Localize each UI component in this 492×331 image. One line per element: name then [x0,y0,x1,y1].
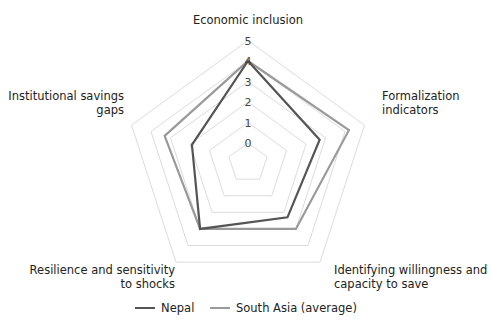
axis-label-1: Formalizationindicators [382,89,460,117]
series-line-nepal [192,61,320,229]
tick-label-0: 0 [245,137,252,150]
legend-item-south-asia: South Asia (average) [210,301,357,315]
legend-swatch-south-asia [210,307,230,309]
tick-label-1: 1 [245,117,252,130]
radar-chart: 012345 Economic inclusionFormalizationin… [0,0,492,300]
legend-label-nepal: Nepal [161,301,194,315]
legend-swatch-nepal [135,307,155,309]
legend-item-nepal: Nepal [135,301,194,315]
axis-label-3: Resilience and sensitivityto shocks [30,263,176,291]
tick-label-3: 3 [245,76,252,89]
tick-label-2: 2 [245,96,252,109]
axis-label-0: Economic inclusion [193,13,303,27]
tick-label-4: 4 [245,55,252,68]
axis-label-2: Identifying willingness andcapacity to s… [334,263,487,291]
tick-labels: 012345 [245,35,252,151]
legend: Nepal South Asia (average) [0,298,492,315]
grid-ring-1 [209,123,286,196]
axis-label-4: Institutional savingsgaps [8,89,124,117]
legend-label-south-asia: South Asia (average) [236,301,357,315]
grid-ring-4 [151,61,345,246]
tick-label-5: 5 [245,35,252,48]
